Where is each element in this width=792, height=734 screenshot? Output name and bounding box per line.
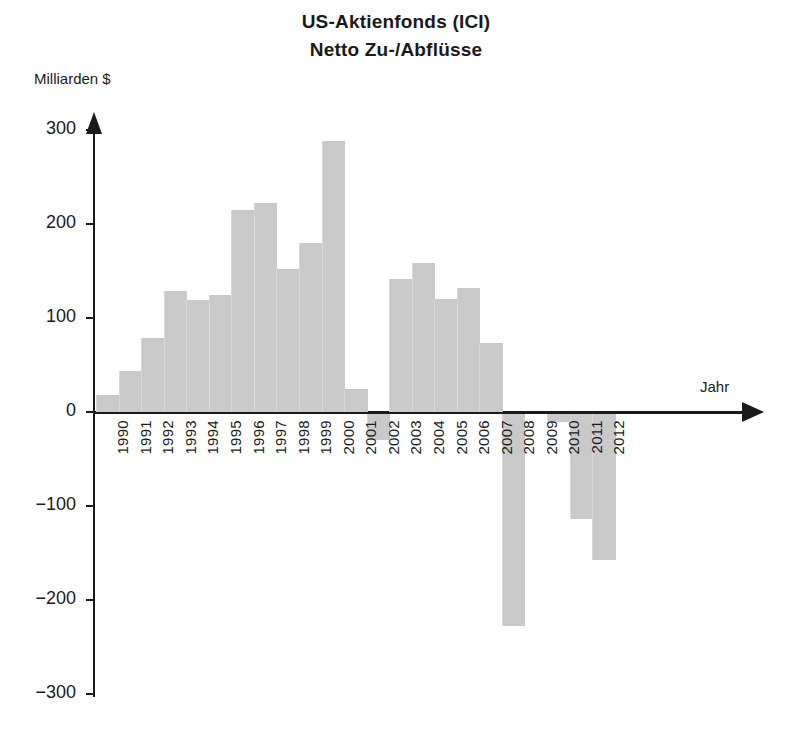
y-tick-100 [86,317,95,319]
x-tick-label-2001: 2001 [362,420,379,455]
x-tick-label-1997: 1997 [272,420,289,455]
bar-2004 [412,263,436,412]
x-tick-label-2000: 2000 [340,420,357,455]
x-tick-label-2009: 2009 [543,420,560,455]
bar-2005 [434,299,458,412]
x-tick-label-2010: 2010 [565,420,582,455]
bar-1999 [299,243,323,412]
y-tick--300 [86,693,95,695]
x-tick-label-1998: 1998 [295,420,312,455]
bar-1995 [209,295,233,412]
y-tick-label-200: 200 [46,212,76,233]
x-tick-label-2004: 2004 [430,420,447,455]
y-tick--200 [86,599,95,601]
x-tick-label-1993: 1993 [182,420,199,455]
x-tick-label-2005: 2005 [453,420,470,455]
x-tick-label-2003: 2003 [407,420,424,455]
bar-2006 [457,288,481,412]
bar-2003 [389,279,413,412]
bar-1996 [231,210,255,412]
bar-1992 [141,338,165,412]
y-tick-label-0: 0 [66,400,76,421]
bar-1998 [276,269,300,412]
x-tick-label-1995: 1995 [227,420,244,455]
y-tick-200 [86,223,95,225]
x-tick-label-2002: 2002 [385,420,402,455]
y-tick-label-100: 100 [46,306,76,327]
x-tick-label-1994: 1994 [204,420,221,455]
x-tick-label-1990: 1990 [114,420,131,455]
y-tick-label-300: 300 [46,118,76,139]
x-tick-label-1991: 1991 [137,420,154,455]
y-tick-300 [86,129,95,131]
bar-1993 [164,291,188,412]
chart-canvas: US-Aktienfonds (ICI) Netto Zu-/Abflüsse … [0,0,792,734]
x-axis-arrow-icon [742,402,764,422]
y-axis-line [93,133,95,697]
y-tick-label--300: −300 [35,682,76,703]
x-tick-label-1992: 1992 [159,420,176,455]
y-tick-label--100: −100 [35,494,76,515]
x-tick-label-2007: 2007 [498,420,515,455]
x-tick-label-1996: 1996 [250,420,267,455]
y-tick-0 [86,411,95,413]
y-tick--100 [86,505,95,507]
bar-2001 [344,389,368,413]
x-tick-label-2006: 2006 [475,420,492,455]
x-tick-label-2012: 2012 [610,420,627,455]
x-tick-label-1999: 1999 [317,420,334,455]
x-tick-label-2011: 2011 [588,420,605,453]
bar-2007 [479,343,503,412]
bar-1991 [119,371,143,412]
bar-1990 [96,395,120,412]
bar-1994 [186,300,210,412]
bar-1997 [254,203,278,412]
bar-2000 [322,141,346,412]
y-tick-label--200: −200 [35,588,76,609]
x-tick-label-2008: 2008 [520,420,537,455]
x-axis-label: Jahr [700,378,729,395]
bar-series [96,0,616,734]
